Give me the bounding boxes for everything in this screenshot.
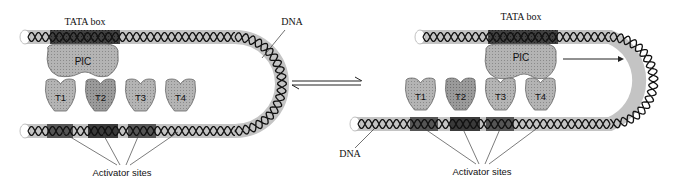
equilibrium-arrows — [292, 77, 362, 89]
diagram-canvas: PIC T1T2T3T4 TATA box DNA Activator site… — [0, 0, 682, 188]
site-pointer-3-right — [485, 129, 500, 164]
activator-label-t1-left: T1 — [55, 92, 66, 103]
dna-label-left: DNA — [281, 16, 303, 27]
site-pointer-2-right — [463, 129, 479, 164]
activator-label-t2-right: T2 — [455, 91, 466, 102]
activator-site-3-right — [486, 117, 514, 131]
left-panel: PIC T1T2T3T4 TATA box DNA Activator site… — [20, 16, 304, 178]
tata-box-region-right — [488, 30, 558, 44]
activator-label-t1-right: T1 — [415, 91, 426, 102]
activator-label-t3-right: T3 — [495, 91, 506, 102]
right-panel: PIC T1T2T3T4 TATA box DNA Activator site… — [339, 11, 658, 177]
activator-label-t4-left: T4 — [175, 92, 186, 103]
site-pointer-1-right — [425, 129, 476, 164]
sites-label-left: Activator sites — [92, 167, 151, 178]
site-pointer-4-right — [489, 129, 536, 164]
tata-label-right: TATA box — [501, 11, 542, 22]
sites-label-right: Activator sites — [452, 166, 511, 177]
pic-label-left: PIC — [75, 56, 92, 67]
transcription-arrow-head — [618, 56, 624, 62]
tata-box-region-left — [50, 30, 120, 44]
activator-label-t4-right: T4 — [535, 91, 546, 102]
activator-label-t3-left: T3 — [135, 92, 146, 103]
pic-label-right: PIC — [513, 52, 530, 63]
dna-label-right: DNA — [339, 148, 361, 159]
activator-site-3-left — [128, 124, 156, 138]
activator-site-2-left — [88, 124, 118, 138]
tata-label-left: TATA box — [65, 16, 106, 27]
activator-label-t2-left: T2 — [95, 92, 106, 103]
activator-site-2-right — [450, 117, 480, 131]
